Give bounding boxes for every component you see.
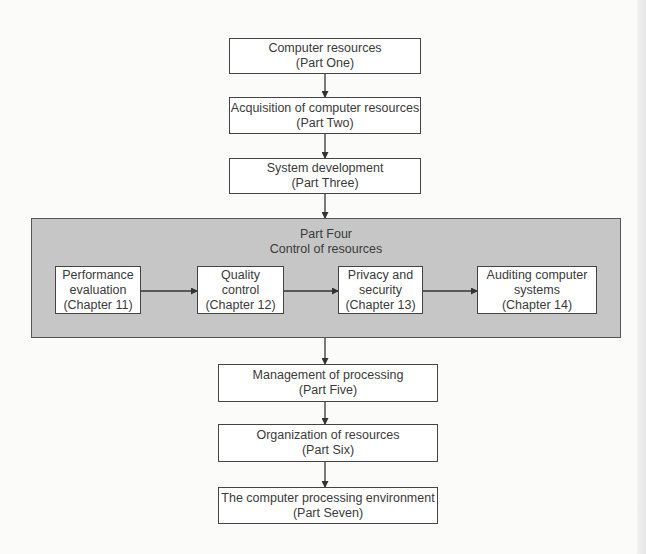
node-part-three: System development (Part Three) [229, 158, 421, 194]
node-title: The computer processing environment [221, 491, 434, 506]
panel-title: Part Four Control of resources [32, 227, 620, 257]
node-subtitle: (Part Two) [296, 116, 353, 131]
panel-subheading: Control of resources [32, 242, 620, 257]
panel-heading: Part Four [32, 227, 620, 242]
node-line3: (Chapter 12) [205, 298, 275, 313]
node-line1: Privacy and [348, 268, 413, 283]
node-title: Management of processing [253, 368, 404, 383]
node-title: System development [267, 161, 384, 176]
node-line2: control [222, 283, 260, 298]
node-line2: security [359, 283, 402, 298]
node-subtitle: (Part Five) [299, 383, 357, 398]
node-part-five: Management of processing (Part Five) [218, 364, 438, 402]
node-title: Organization of resources [256, 428, 399, 443]
node-line3: (Chapter 11) [63, 298, 132, 313]
node-chapter-12: Quality control (Chapter 12) [197, 266, 284, 314]
node-part-seven: The computer processing environment (Par… [218, 487, 438, 524]
node-line1: Auditing computer [487, 268, 588, 283]
node-chapter-13: Privacy and security (Chapter 13) [338, 266, 423, 314]
node-subtitle: (Part Seven) [293, 506, 363, 521]
node-chapter-11: Performance evaluation (Chapter 11) [55, 266, 141, 314]
node-part-one: Computer resources (Part One) [229, 38, 421, 74]
node-subtitle: (Part Six) [302, 443, 354, 458]
node-line1: Performance [62, 268, 134, 283]
node-line2: systems [514, 283, 560, 298]
node-line1: Quality [221, 268, 260, 283]
node-subtitle: (Part One) [296, 56, 354, 71]
node-line2: evaluation [70, 283, 127, 298]
node-part-two: Acquisition of computer resources (Part … [229, 97, 421, 134]
node-title: Acquisition of computer resources [231, 101, 419, 116]
node-chapter-14: Auditing computer systems (Chapter 14) [477, 266, 597, 314]
node-line3: (Chapter 13) [345, 298, 415, 313]
node-line3: (Chapter 14) [502, 298, 572, 313]
node-title: Computer resources [268, 41, 381, 56]
node-subtitle: (Part Three) [291, 176, 358, 191]
page-gutter [637, 0, 646, 554]
node-part-six: Organization of resources (Part Six) [218, 424, 438, 462]
